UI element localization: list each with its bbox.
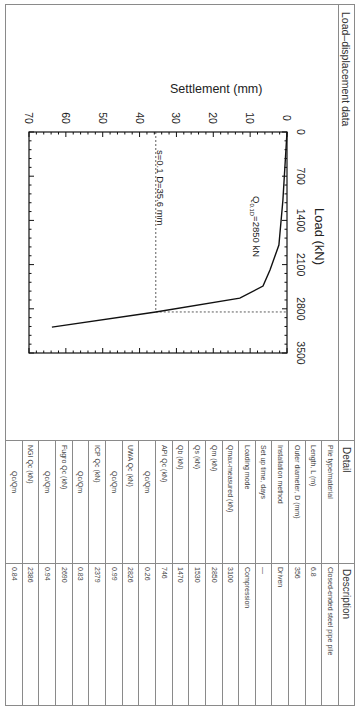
row-divider <box>238 441 239 705</box>
x-tick-label: 0 <box>295 129 307 135</box>
row-divider <box>271 441 272 705</box>
table-row-description: 0.26 <box>144 567 151 581</box>
table-row-detail: NGI Qc (kN) <box>27 445 34 484</box>
table-row-description: 2826 <box>127 567 134 583</box>
table-row-description: 2386 <box>27 567 34 583</box>
table-row-detail: Qc/Qm <box>111 471 118 493</box>
row-divider <box>5 441 6 705</box>
x-tick-label: 1400 <box>295 209 307 233</box>
row-divider <box>155 441 156 705</box>
y-tick-label: 50 <box>97 112 109 124</box>
row-divider <box>38 441 39 705</box>
y-tick-label: 60 <box>60 112 72 124</box>
capacity-value: =2850 kN <box>251 216 262 257</box>
x-tick-label: 2100 <box>295 253 307 277</box>
x-tick-label: 3500 <box>295 341 307 365</box>
table-row-description: 2379 <box>94 567 101 583</box>
table-row-detail: Loading mode <box>244 445 251 489</box>
row-divider <box>72 441 73 705</box>
table-row-description: 2850 <box>211 567 218 583</box>
table-row-description: 0.94 <box>44 567 51 581</box>
table-row-detail: Qc/Qm <box>44 471 51 493</box>
table-row-detail: ICP Qc (kN) <box>94 445 101 483</box>
table-row-detail: Qm (kN) <box>211 445 218 471</box>
table-row-description: 0.99 <box>111 567 118 581</box>
load-settlement-chart: 07001400210028003500010203040506070 <box>0 0 360 440</box>
table-row-description: Driven <box>277 567 284 587</box>
y-tick-label: 20 <box>207 112 219 124</box>
table-row-description: 3100 <box>227 567 234 583</box>
table-row-detail: Set up time, days <box>260 445 267 499</box>
y-tick-label: 70 <box>23 112 35 124</box>
row-divider <box>222 441 223 705</box>
table-row-description: 1530 <box>194 567 201 583</box>
y-tick-label: 0 <box>281 115 293 121</box>
x-axis-label: Load (kN) <box>312 208 327 265</box>
row-divider <box>105 441 106 705</box>
capacity-annotation: Q0.1D=2850 kN <box>249 196 262 257</box>
table-row-detail: Qb (kN) <box>177 445 184 470</box>
header-detail: Detail <box>341 447 352 473</box>
y-tick-label: 10 <box>244 112 256 124</box>
table-row-detail: Length, L (m) <box>310 445 317 486</box>
table-row-description: 0.84 <box>11 567 18 581</box>
row-divider <box>55 441 56 705</box>
y-axis-label: Settlement (mm) <box>170 82 262 96</box>
row-divider <box>205 441 206 705</box>
y-tick-label: 40 <box>134 112 146 124</box>
header-description: Description <box>341 569 352 619</box>
row-divider <box>172 441 173 705</box>
capacity-subscript: 0.1D <box>249 203 255 216</box>
row-divider <box>288 441 289 705</box>
y-tick-label: 30 <box>170 112 182 124</box>
table-row-detail: Fugro Qc (kN) <box>61 445 68 489</box>
table-row-detail: Outer diameter, D (mm) <box>294 445 301 519</box>
table-row-description: Compression <box>244 567 251 608</box>
table-row-detail: Qs (kN) <box>194 445 201 469</box>
table-row-description: 746 <box>161 567 168 579</box>
reference-line-label: s=0.1 D=35.6 mm <box>155 150 166 226</box>
row-divider <box>188 441 189 705</box>
row-divider <box>321 441 322 705</box>
x-tick-label: 700 <box>295 167 307 185</box>
table-row-detail: Qc/Qm <box>77 471 84 493</box>
table-row-detail: UWA Qc (kN) <box>127 445 134 487</box>
table-row-detail: Qc/Qm <box>11 471 18 493</box>
table-row-detail: Installation method <box>277 445 284 504</box>
table-row-description: 356 <box>294 567 301 579</box>
column-divider <box>5 563 355 564</box>
row-divider <box>305 441 306 705</box>
table-row-detail: Qc/Qm <box>144 471 151 493</box>
chart-table-divider <box>5 440 355 441</box>
table-row-description: — <box>260 567 267 574</box>
x-tick-label: 2800 <box>295 297 307 321</box>
table-row-description: 2690 <box>61 567 68 583</box>
table-row-description: Closed-ended steel pipe pile <box>327 567 334 655</box>
row-divider <box>138 441 139 705</box>
table-row-description: 1470 <box>177 567 184 583</box>
row-divider <box>255 441 256 705</box>
table-row-description: 0.83 <box>77 567 84 581</box>
table-row-detail: API Qc (kN) <box>161 445 168 482</box>
row-divider <box>88 441 89 705</box>
table-row-description: 6.8 <box>310 567 317 577</box>
table-row-detail: Qmax-measured (kN) <box>227 445 234 512</box>
row-divider <box>22 441 23 705</box>
row-divider <box>122 441 123 705</box>
table-row-detail: Pile type/material <box>327 445 334 499</box>
